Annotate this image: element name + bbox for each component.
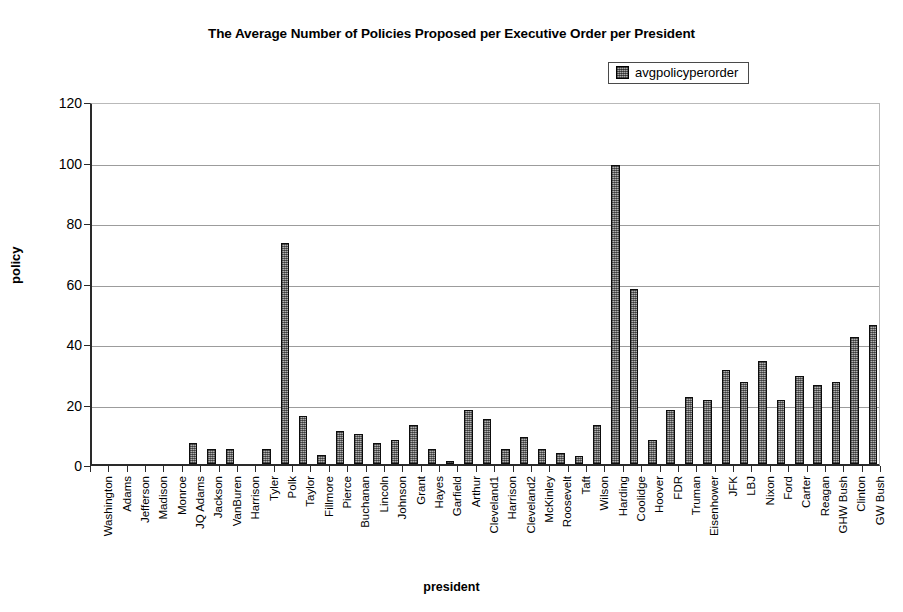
x-tick-label: Coolidge — [636, 476, 648, 521]
bar — [317, 455, 325, 464]
bar — [611, 165, 619, 464]
x-tick-label: Nixon — [765, 476, 777, 505]
x-tick-label: Lincoln — [379, 476, 391, 512]
y-tick-label: 60 — [38, 277, 82, 293]
x-tick-mark — [384, 466, 385, 472]
y-axis-title: policy — [8, 246, 23, 284]
x-tick-mark — [219, 466, 220, 472]
x-tick-label: Harding — [618, 476, 630, 516]
y-tick-label: 80 — [38, 216, 82, 232]
x-tick-label: Fillmore — [324, 476, 336, 517]
bar — [483, 419, 491, 464]
legend-swatch-icon — [616, 66, 629, 79]
x-tick-mark — [200, 466, 201, 472]
x-tick-mark — [182, 466, 183, 472]
x-tick-label: Harrison — [250, 476, 262, 519]
bar — [722, 370, 730, 464]
x-tick-label: Garfield — [452, 476, 464, 516]
x-tick-label: Buchanan — [360, 476, 372, 528]
x-tick-mark — [513, 466, 514, 472]
x-tick-label: Cleveland1 — [489, 476, 501, 534]
x-tick-label: Pierce — [342, 476, 354, 509]
bar — [189, 443, 197, 464]
x-tick-label: Madison — [158, 476, 170, 519]
bars-layer — [92, 104, 879, 464]
bar — [446, 461, 454, 464]
x-tick-label: LBJ — [746, 476, 758, 496]
x-tick-label: GW Bush — [875, 476, 887, 525]
bar — [795, 376, 803, 464]
x-tick-mark — [402, 466, 403, 472]
x-tick-label: Washington — [103, 476, 115, 536]
x-tick-mark — [568, 466, 569, 472]
x-axis-title: president — [0, 580, 903, 594]
x-tick-mark — [678, 466, 679, 472]
x-tick-label: Hoover — [654, 476, 666, 513]
y-tick-label: 120 — [38, 95, 82, 111]
x-tick-mark — [255, 466, 256, 472]
x-tick-label: Harrison — [507, 476, 519, 519]
bar — [869, 325, 877, 464]
bar — [666, 410, 674, 464]
x-tick-mark — [880, 466, 881, 472]
x-tick-mark — [145, 466, 146, 472]
x-tick-label: Monroe — [177, 476, 189, 515]
x-tick-mark — [457, 466, 458, 472]
x-tick-mark — [733, 466, 734, 472]
x-tick-label: JFK — [728, 476, 740, 496]
x-tick-label: JQ Adams — [195, 476, 207, 529]
bar — [630, 289, 638, 464]
x-tick-mark — [329, 466, 330, 472]
x-tick-mark — [586, 466, 587, 472]
plot-area — [90, 103, 880, 466]
x-tick-label: Clinton — [856, 476, 868, 512]
x-tick-label: Tyler — [269, 476, 281, 501]
x-tick-mark — [439, 466, 440, 472]
x-tick-mark — [531, 466, 532, 472]
bar — [428, 449, 436, 464]
x-tick-label: GHW Bush — [838, 476, 850, 534]
x-tick-label: Carter — [801, 476, 813, 508]
bar — [281, 243, 289, 464]
x-tick-mark — [641, 466, 642, 472]
y-tick-label: 100 — [38, 156, 82, 172]
bar — [501, 449, 509, 464]
x-tick-label: Jefferson — [140, 476, 152, 523]
bar — [354, 434, 362, 464]
bar — [207, 449, 215, 464]
bar — [740, 382, 748, 464]
x-tick-label: VanBuren — [232, 476, 244, 526]
bar — [703, 400, 711, 464]
bar — [850, 337, 858, 464]
x-tick-mark — [476, 466, 477, 472]
bar — [593, 425, 601, 464]
x-tick-mark — [163, 466, 164, 472]
x-tick-label: McKinley — [544, 476, 556, 523]
x-tick-mark — [237, 466, 238, 472]
x-tick-label: Ford — [783, 476, 795, 500]
chart-title: The Average Number of Policies Proposed … — [0, 26, 903, 41]
x-tick-label: Cleveland2 — [526, 476, 538, 534]
x-tick-label: Polk — [287, 476, 299, 498]
bar — [520, 437, 528, 464]
bar — [758, 361, 766, 464]
x-tick-mark — [108, 466, 109, 472]
x-tick-label: Jackson — [213, 476, 225, 518]
bar — [373, 443, 381, 464]
chart-legend: avgpolicyperorder — [608, 62, 749, 84]
legend-label: avgpolicyperorder — [635, 66, 738, 79]
x-tick-mark — [751, 466, 752, 472]
bar-chart: The Average Number of Policies Proposed … — [0, 0, 903, 612]
x-tick-label: Reagan — [820, 476, 832, 516]
x-tick-label: Eisenhower — [709, 476, 721, 536]
bar — [262, 449, 270, 464]
bar — [685, 397, 693, 464]
bar — [777, 400, 785, 464]
x-tick-mark — [788, 466, 789, 472]
x-tick-mark — [347, 466, 348, 472]
bar — [575, 456, 583, 464]
y-tick-label: 40 — [38, 337, 82, 353]
bar — [648, 440, 656, 464]
x-tick-label: Grant — [416, 476, 428, 505]
x-tick-label: Taft — [581, 476, 593, 495]
